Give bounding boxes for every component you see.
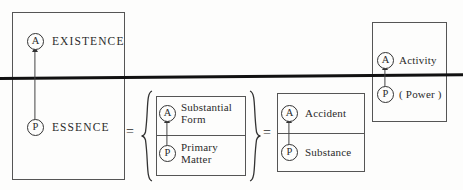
act-marker-form: A <box>159 105 176 122</box>
potency-marker-power: P <box>377 86 394 103</box>
potency-marker-substance: P <box>281 144 298 161</box>
left-brace <box>140 90 154 182</box>
accident-label: Accident <box>305 107 346 119</box>
power-label: ( Power ) <box>399 88 442 100</box>
act-potency-diagram: A EXISTENCE P ESSENCE = A Substantial Fo… <box>0 0 463 190</box>
act-marker-accident: A <box>281 105 298 122</box>
potency-marker-essence: P <box>27 119 44 136</box>
primary-matter-label-line1: Primary <box>181 141 218 154</box>
arrow-shaft <box>34 48 35 127</box>
primary-matter-label-line2: Matter <box>181 153 212 166</box>
potency-marker-matter: P <box>159 145 176 162</box>
right-brace <box>248 90 262 182</box>
substantial-form-label-line1: Substantial <box>181 101 232 114</box>
act-marker-existence: A <box>27 33 44 50</box>
equals-sign-2: = <box>263 126 271 140</box>
substantial-form-label-line2: Form <box>181 113 206 126</box>
act-marker-activity: A <box>377 52 394 69</box>
potency-to-act-arrow-existence <box>31 48 38 127</box>
substance-label: Substance <box>305 146 351 158</box>
activity-label: Activity <box>399 54 437 66</box>
essence-label: ESSENCE <box>52 121 110 133</box>
equals-sign-1: = <box>126 125 134 139</box>
existence-label: EXISTENCE <box>52 35 125 47</box>
